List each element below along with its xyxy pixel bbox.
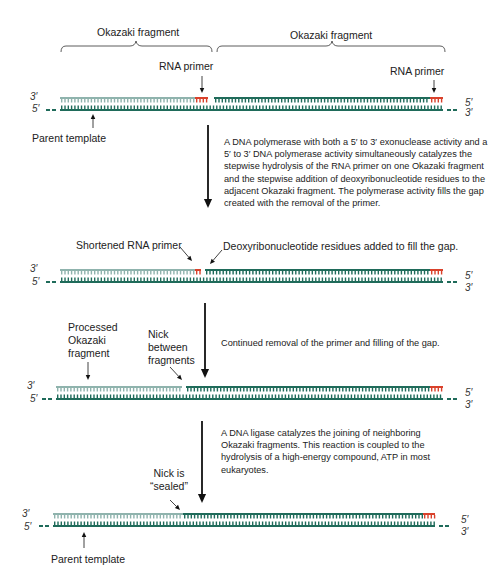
nick-between-fragments-label: Nick between fragments — [148, 328, 195, 367]
strand-end-3prime: 3′ — [465, 107, 472, 118]
strand-end-5prime: 5′ — [24, 521, 31, 532]
strand-end-3prime: 3′ — [30, 263, 37, 274]
strand-end-5prime: 5′ — [465, 387, 472, 398]
strand-end-3prime: 3′ — [27, 380, 34, 391]
strand-end-3prime: 3′ — [22, 508, 29, 519]
strand-end-3prime: 3′ — [30, 91, 37, 102]
dna-diagram — [0, 0, 499, 580]
strand-end-5prime: 5′ — [461, 514, 468, 525]
strand-end-3prime: 3′ — [465, 282, 472, 293]
ligase-description: A DNA ligase catalyzes the joining of ne… — [221, 427, 431, 476]
okazaki-fragment-label-left: Okazaki fragment — [97, 26, 179, 38]
shortened-rna-primer-label: Shortened RNA primer — [76, 239, 182, 251]
strand-end-5prime: 5′ — [32, 276, 39, 287]
strand-end-5prime: 5′ — [30, 393, 37, 404]
parent-template-label: Parent template — [51, 553, 125, 565]
nick-sealed-label: Nick is “sealed” — [150, 467, 188, 493]
strand-end-5prime: 5′ — [465, 270, 472, 281]
strand-end-3prime: 3′ — [461, 526, 468, 537]
rna-primer-label-right: RNA primer — [390, 65, 444, 77]
processed-okazaki-label: Processed Okazaki fragment — [68, 321, 118, 360]
okazaki-fragment-label-right: Okazaki fragment — [290, 29, 372, 41]
parent-template-label: Parent template — [32, 132, 106, 144]
strand-end-3prime: 3′ — [465, 399, 472, 410]
rna-primer-label-left: RNA primer — [159, 60, 213, 72]
polymerase-description: A DNA polymerase with both a 5′ to 3′ ex… — [224, 136, 492, 209]
residues-added-label: Deoxyribonucleotide residues added to fi… — [223, 240, 458, 252]
continued-removal-description: Continued removal of the primer and fill… — [221, 337, 499, 349]
strand-end-5prime: 5′ — [32, 103, 39, 114]
